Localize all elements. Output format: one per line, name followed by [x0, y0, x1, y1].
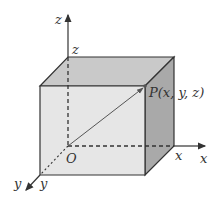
x-axis-label: x — [200, 151, 208, 166]
z-edge-label: z — [71, 42, 79, 57]
point-p — [143, 84, 147, 88]
point-label: P(x, y, z) — [148, 85, 204, 100]
y-axis — [26, 175, 40, 190]
front-face — [40, 86, 145, 175]
origin-label: O — [66, 151, 77, 166]
y-edge-label: y — [39, 176, 48, 191]
x-edge-label: x — [175, 148, 183, 163]
z-axis-label: z — [54, 12, 62, 27]
y-axis-label: y — [13, 176, 22, 191]
box-diagram: z z P(x, y, z) O x x y y — [0, 0, 219, 207]
